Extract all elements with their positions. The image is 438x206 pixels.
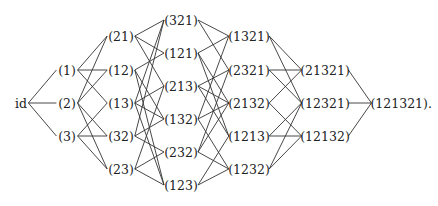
node-23: (23) [108, 162, 134, 177]
node-32: (32) [108, 129, 134, 144]
node-12321: (12321) [300, 96, 350, 111]
node-2: (2) [58, 96, 76, 111]
node-132: (132) [164, 112, 198, 127]
node-2132: (2132) [228, 96, 270, 111]
edge-13-321 [135, 20, 164, 103]
node-321: (321) [164, 13, 198, 28]
edge-32-232 [135, 136, 164, 152]
edge-23-213 [135, 86, 164, 169]
node-2321: (2321) [228, 63, 270, 78]
edge-1321-12321 [269, 36, 301, 103]
node-1321: (1321) [228, 29, 270, 44]
node-21321: (21321) [300, 63, 350, 78]
node-232: (232) [164, 145, 198, 160]
edge-id-1 [28, 70, 56, 103]
hasse-diagram: (1)(2)(3)(12)(13)(21)(23)(32)(121)(123)(… [0, 0, 438, 206]
edge-1-21 [78, 36, 108, 70]
edge-1232-12132 [269, 136, 301, 169]
node-13: (13) [108, 96, 134, 111]
edge-2-21 [78, 36, 108, 103]
node-1213: (1213) [228, 129, 270, 144]
edge-213-2132 [198, 86, 229, 103]
node-id: id [15, 96, 27, 111]
node-123: (123) [164, 178, 198, 193]
edge-12132-121321 [348, 103, 371, 136]
node-3: (3) [58, 129, 76, 144]
node-1232: (1232) [228, 162, 270, 177]
node-21: (21) [108, 29, 134, 44]
node-121321: (121321). [370, 96, 431, 111]
edge-1321-21321 [269, 36, 301, 70]
node-1: (1) [58, 63, 76, 78]
node-121: (121) [164, 46, 198, 61]
diagram-canvas: (1)(2)(3)(12)(13)(21)(23)(32)(121)(123)(… [0, 0, 438, 206]
edge-132-1321 [198, 36, 229, 119]
node-12: (12) [108, 63, 134, 78]
node-213: (213) [164, 79, 198, 94]
edge-id-3 [28, 103, 56, 136]
edge-3-23 [78, 136, 108, 169]
node-12132: (12132) [300, 129, 350, 144]
edge-21321-121321 [348, 70, 371, 103]
edge-121-1321 [198, 36, 229, 53]
